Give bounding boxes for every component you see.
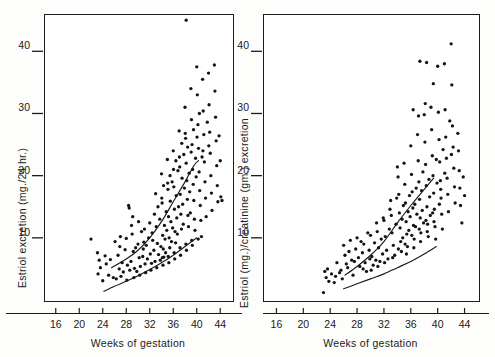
data-point [361,251,364,254]
data-point [400,218,403,221]
data-point [167,261,170,264]
data-point [157,253,160,256]
data-point [446,193,449,196]
data-point [178,246,181,249]
data-point [164,251,167,254]
panel-left: Estriol excretion (mg./24 hr.) Weeks of … [0,0,248,357]
data-point [427,235,430,238]
data-point [374,259,377,262]
data-point [186,198,189,201]
data-point [353,260,356,263]
data-point [179,254,182,257]
data-point [159,245,162,248]
data-point [412,246,415,249]
data-point [437,138,440,141]
y-tick-label: 40 [12,39,30,51]
data-point [136,242,139,245]
data-point [453,185,456,188]
data-point [213,63,216,66]
data-point [184,242,187,245]
data-point [410,234,413,237]
data-point [351,273,354,276]
data-point [195,135,198,138]
data-point [112,276,115,279]
data-point [377,246,380,249]
data-point [342,244,345,247]
data-point [391,256,394,259]
data-point [429,214,432,217]
data-point [408,194,411,197]
data-point [179,193,182,196]
data-point [368,249,371,252]
data-point [186,145,189,148]
data-point [96,251,99,254]
x-axis-label-left: Weeks of gestation [44,337,232,349]
data-point [116,254,119,257]
data-point [138,256,141,259]
x-tick-label: 16 [265,318,287,330]
data-point [423,113,426,116]
data-point [173,230,176,233]
data-point [363,261,366,264]
data-point [426,230,429,233]
data-point [161,256,164,259]
data-point [155,266,158,269]
data-point [203,180,206,183]
x-axis-line-right [263,313,489,314]
data-point [175,216,178,219]
data-point [139,265,142,268]
data-point [325,276,328,279]
data-point [411,206,414,209]
data-point [153,213,156,216]
data-point [441,148,444,151]
data-point [178,165,181,168]
x-tick-label: 28 [346,318,368,330]
data-point [394,223,397,226]
data-point [201,78,204,81]
data-point [415,213,418,216]
data-point [425,184,428,187]
data-point [161,234,164,237]
data-point [192,128,195,131]
data-point [346,266,349,269]
data-point [135,270,138,273]
data-point [141,255,144,258]
data-point [428,195,431,198]
data-point [118,267,121,270]
data-point [459,204,462,207]
data-point [378,260,381,263]
data-point [410,173,413,176]
data-point [107,273,110,276]
data-point [172,251,175,254]
data-point [424,219,427,222]
data-point [417,180,420,183]
data-point [354,247,357,250]
data-point [205,215,208,218]
data-point [412,108,415,111]
data-point [189,211,192,214]
data-point [436,65,439,68]
y-tick-label: 40 [231,39,249,51]
data-point [431,211,434,214]
data-point [404,220,407,223]
data-point [370,269,373,272]
data-point [427,178,430,181]
data-point [191,244,194,247]
data-point [123,248,126,251]
data-point [383,261,386,264]
data-point [145,244,148,247]
data-point [182,153,185,156]
data-point [361,267,364,270]
data-point [119,275,122,278]
data-point [460,221,463,224]
data-point [180,142,183,145]
data-point [163,237,166,240]
x-tick-label: 20 [292,318,314,330]
data-point [179,213,182,216]
x-tick-label: 24 [92,318,114,330]
data-point [386,257,389,260]
data-point [424,102,427,105]
data-point [418,198,421,201]
data-point [180,227,183,230]
data-point [445,176,448,179]
